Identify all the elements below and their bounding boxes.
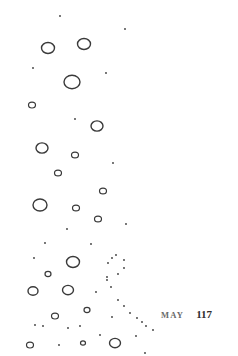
bubble-dot [111, 257, 113, 259]
bubble-circle [63, 285, 74, 294]
bubble-dot [123, 259, 125, 261]
bubble-circle [55, 170, 62, 176]
document-page: MAY 117 [0, 0, 238, 356]
bubble-circle [36, 143, 48, 153]
bubble-dot [99, 334, 101, 336]
page-footer: MAY 117 [161, 306, 212, 322]
footer-month: MAY [161, 310, 184, 320]
page-number: 117 [196, 308, 212, 320]
bubble-dot [66, 228, 68, 230]
bubble-dot [129, 312, 131, 314]
bubble-dot [124, 28, 126, 30]
bubble-dot [111, 316, 113, 318]
bubble-dot [74, 118, 76, 120]
bubble-circle [27, 342, 34, 348]
bubble-circle [73, 205, 80, 211]
bubble-dot [141, 321, 143, 323]
bubble-dot [117, 273, 119, 275]
bubble-dot [33, 257, 35, 259]
bubble-dot [112, 162, 114, 164]
bubble-circle [72, 152, 79, 158]
bubble-circle [52, 313, 59, 319]
bubble-circle [95, 216, 102, 222]
bubble-dot [144, 352, 146, 354]
bubble-circle [84, 307, 90, 312]
bubble-dot [123, 305, 125, 307]
bubble-dot [152, 329, 154, 331]
bubble-dot [105, 72, 107, 74]
bubble-dot [90, 243, 92, 245]
bubble-circle [45, 271, 51, 276]
bubble-circle [28, 287, 38, 296]
bubble-circle [64, 75, 80, 89]
bubble-dot [136, 317, 138, 319]
bubble-dot [67, 327, 69, 329]
bubble-circle [67, 256, 80, 267]
bubble-circle [100, 188, 107, 194]
bubble-dot [58, 344, 60, 346]
bubble-circle [29, 102, 36, 108]
bubble-dot [79, 325, 81, 327]
bubbles-illustration [0, 0, 238, 356]
bubble-dot [125, 223, 127, 225]
bubble-dot [42, 325, 44, 327]
bubble-circle [33, 199, 47, 211]
bubble-circle [81, 341, 86, 345]
bubble-dot [59, 15, 61, 17]
bubble-dot [34, 324, 36, 326]
bubble-dot [115, 254, 117, 256]
bubble-dot [117, 299, 119, 301]
bubble-circle [110, 338, 121, 347]
bubble-dot [135, 335, 137, 337]
bubble-circle [91, 121, 103, 131]
bubble-dot [107, 262, 109, 264]
bubble-circle [42, 42, 55, 53]
bubble-dot [145, 325, 147, 327]
bubble-circle [78, 38, 91, 49]
bubble-dot [123, 267, 125, 269]
bubble-dot [106, 279, 108, 281]
bubble-dot [32, 67, 34, 69]
bubble-dot [110, 286, 112, 288]
bubble-dot [95, 291, 97, 293]
bubble-dot [44, 242, 46, 244]
bubble-dot [106, 276, 108, 278]
